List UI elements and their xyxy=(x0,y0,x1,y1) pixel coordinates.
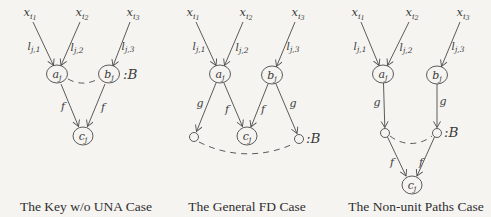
panel-caption: The Non-unit Paths Case xyxy=(348,199,483,214)
edge-label-g-left: g xyxy=(196,97,203,110)
anon-node-left xyxy=(190,133,199,142)
anon-node-left xyxy=(381,129,390,138)
anon-node-right xyxy=(295,135,304,144)
b-annotation: :B xyxy=(306,130,321,146)
anon-node-right xyxy=(433,129,442,138)
panel-caption: The General FD Case xyxy=(188,199,305,214)
edge-label-g-right: g xyxy=(289,97,296,110)
b-annotation: :B xyxy=(123,66,138,82)
edge-label-g-left: g xyxy=(373,96,380,109)
edge-label-g-right: g xyxy=(439,95,446,108)
panel-caption: The Key w/o UNA Case xyxy=(20,199,152,214)
figure: xi1 xi2 xi3 lj,1 lj,2 lj,3 aj bj :B f f … xyxy=(0,0,491,217)
figure-canvas: xi1 xi2 xi3 lj,1 lj,2 lj,3 aj bj :B f f … xyxy=(0,0,491,217)
b-annotation: :B xyxy=(444,124,459,140)
